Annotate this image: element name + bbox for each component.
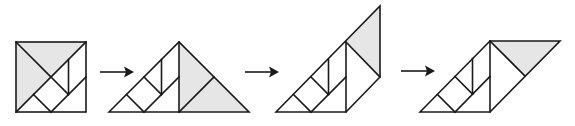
shaded-large-triangle (490, 41, 560, 76)
small-square-edge (127, 95, 145, 113)
figure-intermediate (276, 6, 380, 112)
small-triangle-edge (144, 77, 162, 95)
small-square-edge (438, 95, 456, 113)
tangram-diagram (0, 0, 575, 126)
arrow-1 (100, 67, 134, 78)
small-triangle-edge (51, 77, 69, 95)
figure-triangle (109, 42, 249, 112)
figure-parallelogram (420, 41, 560, 112)
figure-square (16, 42, 86, 112)
arrow-2 (245, 67, 279, 78)
small-square-edge (294, 95, 312, 113)
arrow-3 (401, 66, 435, 77)
small-square-edge (34, 95, 52, 113)
small-triangle-edge (455, 77, 473, 95)
shaded-large-triangle (346, 6, 380, 77)
small-triangle-edge (311, 77, 329, 95)
